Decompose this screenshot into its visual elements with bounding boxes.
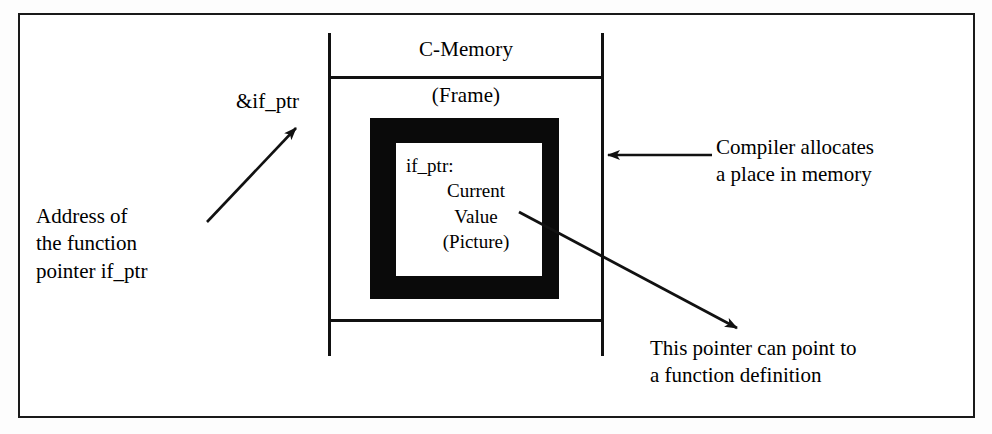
memory-column-bottom-divider (330, 319, 602, 322)
frame-label: (Frame) (329, 85, 603, 106)
c-memory-label: C-Memory (329, 39, 603, 60)
memory-cell-line-4: (Picture) (396, 229, 542, 254)
memory-cell-text: if_ptr: Current Value (Picture) (396, 153, 542, 254)
memory-column-top-divider (330, 76, 602, 79)
compiler-allocates-note: Compiler allocates a place in memory (716, 134, 874, 189)
pointer-target-note: This pointer can point to a function def… (650, 335, 856, 390)
memory-cell-interior: if_ptr: Current Value (Picture) (396, 143, 542, 276)
memory-cell-line-1: if_ptr: (396, 153, 542, 178)
address-of-description: Address of the function pointer if_ptr (36, 203, 147, 285)
figure-canvas: C-Memory (Frame) if_ptr: Current Value (… (0, 0, 992, 434)
memory-cell-line-3: Value (396, 204, 542, 229)
memory-column-left-rule (328, 33, 331, 356)
memory-cell-border: if_ptr: Current Value (Picture) (370, 118, 559, 299)
memory-column-right-rule (601, 33, 604, 356)
memory-cell-line-2: Current (396, 178, 542, 203)
address-of-label: &if_ptr (236, 88, 299, 115)
